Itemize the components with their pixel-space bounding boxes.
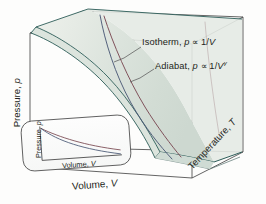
figure-canvas	[0, 0, 266, 204]
axis-label-pressure-name: Pressure,	[11, 84, 22, 128]
inset-axis-label-volume-symbol: V	[90, 159, 96, 168]
inset-axis-label-pressure-symbol: p	[34, 121, 43, 125]
inset-axis-label-volume: Volume, V	[62, 160, 96, 170]
isotherm-expr-lead: 1/	[201, 37, 209, 47]
axis-label-volume-symbol: V	[110, 177, 118, 188]
adiabat-prefix: Adiabat,	[155, 61, 193, 71]
adiabat-exponent-gamma: γ	[224, 59, 227, 66]
isotherm-expr-var: V	[209, 37, 215, 47]
adiabat-proportional-sign: ∝	[198, 61, 209, 71]
isotherm-proportional-sign: ∝	[190, 37, 201, 47]
adiabat-annotation-label: Adiabat, p ∝ 1/Vγ	[155, 60, 227, 71]
axis-label-pressure: Pressure, p	[12, 63, 22, 143]
inset-axis-label-pressure: Pressure, p	[35, 117, 42, 163]
isotherm-annotation-label: Isotherm, p ∝ 1/V	[142, 38, 215, 47]
isotherm-prefix: Isotherm,	[142, 37, 184, 47]
axis-label-pressure-symbol: p	[11, 78, 22, 83]
inset-axis-label-pressure-name: Pressure,	[34, 125, 43, 158]
thermodynamic-surface-figure: Isotherm, p ∝ 1/V Adiabat, p ∝ 1/Vγ Pres…	[0, 0, 266, 204]
